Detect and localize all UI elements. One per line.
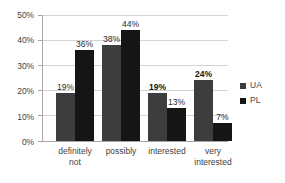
y-tick-label: 40% [17, 36, 34, 45]
y-tick-label: 20% [17, 87, 34, 96]
bar-value-label: 36% [76, 40, 93, 49]
x-axis-labels: definitely not possibly interested very … [42, 146, 228, 183]
x-axis-label-possibly: possibly [99, 146, 143, 157]
bar-value-label: 19% [149, 83, 166, 92]
bar-value-label: 19% [57, 83, 74, 92]
bar-value-label: 44% [122, 20, 139, 29]
legend-item-ua[interactable]: UA [240, 78, 285, 93]
bar-group-very-interested: 24% 7% [191, 15, 235, 141]
bar-pl[interactable]: 7% [213, 123, 232, 141]
legend-label: UA [250, 81, 262, 90]
plot-area: 19% 36% 38% 44% 19% 13% [42, 15, 228, 142]
legend-label: PL [250, 96, 260, 105]
bar-group-possibly: 38% 44% [99, 15, 143, 141]
bar-pl[interactable]: 44% [121, 30, 140, 141]
legend-swatch-icon [240, 83, 246, 89]
legend: UA PL [240, 78, 285, 108]
y-tick-label: 0% [22, 138, 34, 147]
x-axis-label-line: not [53, 157, 97, 168]
bar-group-definitely-not: 19% 36% [53, 15, 97, 141]
bar-ua[interactable]: 19% [148, 93, 167, 141]
x-axis-label-line: very [188, 146, 238, 157]
bar-value-label: 13% [168, 98, 185, 107]
x-axis-label-line: possibly [99, 146, 143, 157]
legend-item-pl[interactable]: PL [240, 93, 285, 108]
x-axis-label-line: definitely [53, 146, 97, 157]
legend-swatch-icon [240, 98, 246, 104]
bar-value-label: 24% [195, 70, 212, 79]
x-axis-label-definitely-not: definitely not [53, 146, 97, 168]
bar-value-label: 7% [216, 113, 228, 122]
bar-ua[interactable]: 24% [194, 80, 213, 141]
bar-groups: 19% 36% 38% 44% 19% 13% [42, 15, 228, 142]
y-tick-label: 30% [17, 62, 34, 71]
x-axis-label-line: interested [142, 146, 192, 157]
x-axis-label-interested: interested [142, 146, 192, 157]
bar-value-label: 38% [103, 35, 120, 44]
x-axis-label-very-interested: very interested [188, 146, 238, 168]
bar-pl[interactable]: 13% [167, 108, 186, 141]
y-tick-label: 10% [17, 113, 34, 122]
bar-ua[interactable]: 19% [56, 93, 75, 141]
y-axis: 50% 40% 30% 20% 10% 0% [0, 0, 38, 183]
bar-chart: 50% 40% 30% 20% 10% 0% 19% 36% [0, 0, 285, 183]
y-tick-label: 50% [17, 11, 34, 20]
bar-ua[interactable]: 38% [102, 45, 121, 141]
bar-pl[interactable]: 36% [75, 50, 94, 141]
bar-group-interested: 19% 13% [145, 15, 189, 141]
x-axis-label-line: interested [188, 157, 238, 168]
